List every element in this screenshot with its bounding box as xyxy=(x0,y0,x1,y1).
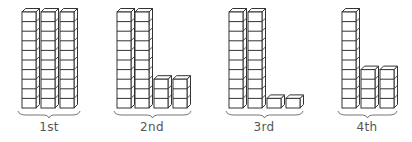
unit-cube xyxy=(267,95,285,108)
ten-rod xyxy=(342,9,360,109)
block-group-3rd xyxy=(226,9,304,119)
brace xyxy=(338,111,397,118)
block-group-2nd xyxy=(114,9,191,119)
ten-rod xyxy=(229,9,247,109)
brace xyxy=(114,111,191,118)
unit-stack xyxy=(154,76,172,108)
ten-rod xyxy=(22,9,40,109)
group-label-3rd: 3rd xyxy=(234,120,294,134)
ten-rod xyxy=(117,9,135,109)
group-label-2nd: 2nd xyxy=(122,120,182,134)
ten-rod xyxy=(135,9,153,109)
group-label-1st: 1st xyxy=(19,120,79,134)
brace xyxy=(18,111,80,118)
group-label-4th: 4th xyxy=(337,120,397,134)
unit-stack xyxy=(173,76,191,108)
block-group-4th xyxy=(338,9,398,119)
ten-rod xyxy=(41,9,59,109)
unit-stack xyxy=(380,66,398,108)
ten-rod xyxy=(248,9,266,109)
ten-rod xyxy=(60,9,78,109)
unit-stack xyxy=(361,66,379,108)
block-group-1st xyxy=(18,9,80,119)
unit-cube xyxy=(286,95,304,108)
brace xyxy=(226,111,303,118)
